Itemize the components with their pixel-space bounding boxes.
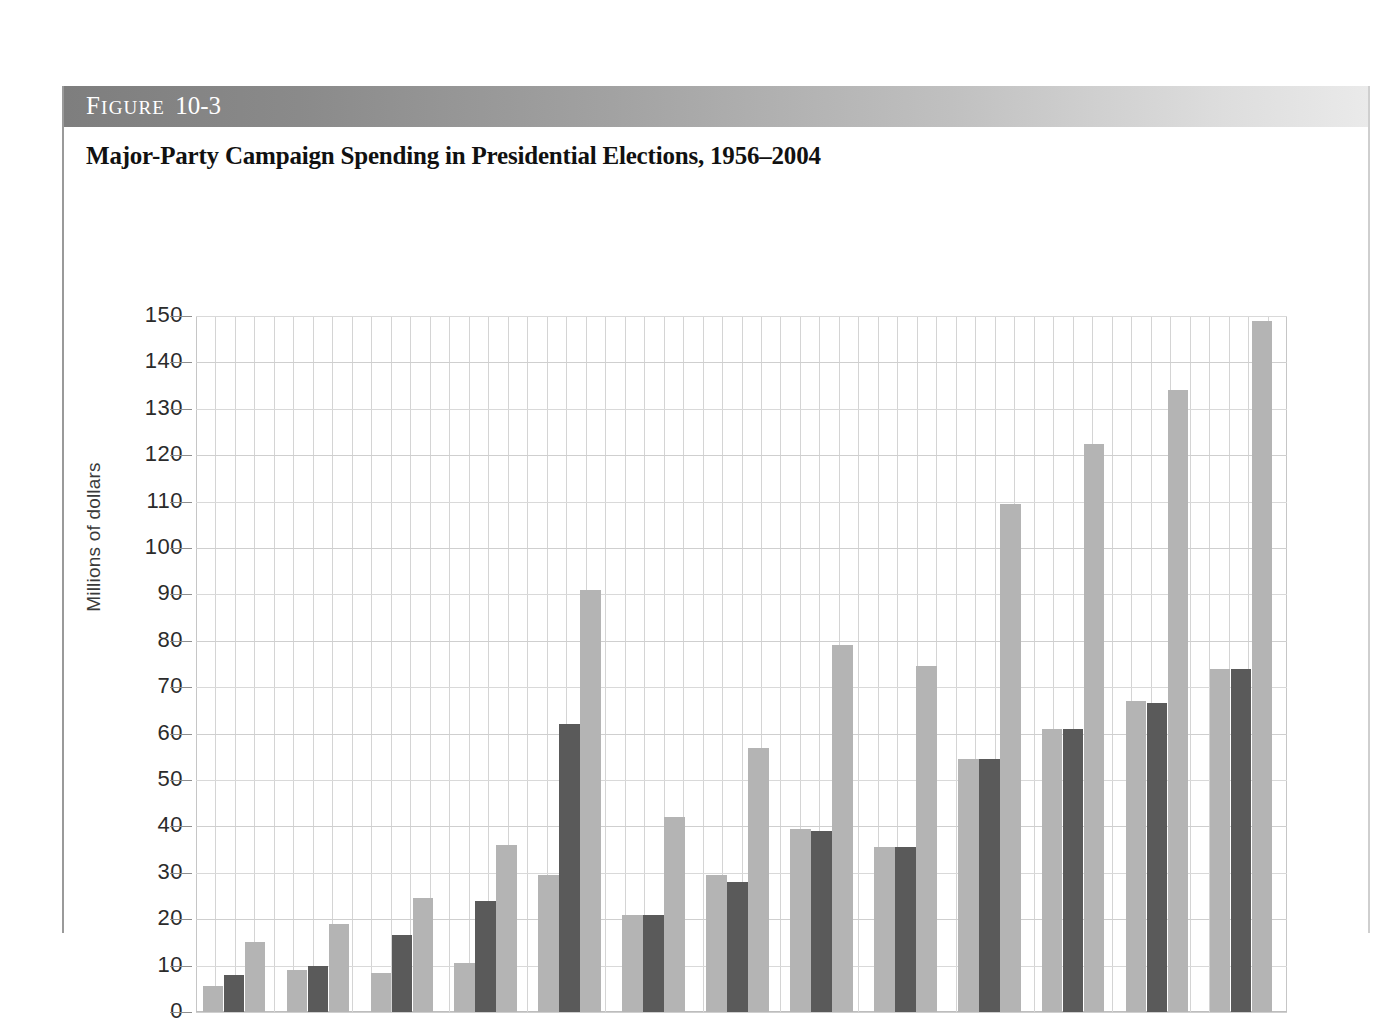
figure-number: 10-3 [175, 92, 221, 119]
bar-1960-democratic [287, 970, 308, 1012]
horizontal-gridline [196, 409, 1287, 410]
vertical-gridline [527, 316, 528, 1012]
horizontal-gridline [196, 362, 1287, 363]
y-axis-tick-mark [170, 687, 192, 688]
bar-2004-democratic [1210, 669, 1231, 1012]
bar-1980-democratic [706, 875, 727, 1012]
horizontal-gridline [196, 455, 1287, 456]
horizontal-gridline [196, 502, 1287, 503]
bar-1996-republican [1063, 729, 1084, 1012]
vertical-gridline [780, 316, 781, 1012]
y-axis-tick-label: 150 [93, 302, 183, 328]
vertical-gridline [313, 316, 314, 1012]
y-axis-tick-mark [170, 966, 192, 967]
bar-1988-democratic [874, 847, 895, 1012]
horizontal-gridline [196, 826, 1287, 827]
bar-1996-total [1084, 444, 1105, 1012]
y-axis-tick-label: 30 [93, 859, 183, 885]
bar-1976-democratic [622, 915, 643, 1012]
bar-1956-republican [224, 975, 245, 1012]
bar-1996-democratic [1042, 729, 1063, 1012]
y-axis-tick-mark [170, 409, 192, 410]
y-axis-tick-label: 90 [93, 580, 183, 606]
y-axis-tick-label: 60 [93, 720, 183, 746]
vertical-gridline [235, 316, 236, 1012]
bar-1960-total [329, 924, 350, 1012]
vertical-gridline [625, 316, 626, 1012]
bar-1964-democratic [371, 973, 392, 1012]
bar-1968-democratic [454, 963, 475, 1012]
bar-2000-total [1168, 390, 1189, 1012]
y-axis-tick-label: 20 [93, 905, 183, 931]
y-axis-tick-label: 10 [93, 952, 183, 978]
horizontal-gridline [196, 641, 1287, 642]
bar-1956-democratic [203, 986, 224, 1012]
y-axis-tick-mark [170, 826, 192, 827]
vertical-gridline [215, 316, 216, 1012]
vertical-gridline [371, 316, 372, 1012]
y-axis-tick-mark [170, 919, 192, 920]
vertical-gridline [410, 316, 411, 1012]
bar-1980-republican [727, 882, 748, 1012]
horizontal-gridline [196, 734, 1287, 735]
y-axis-tick-mark [170, 780, 192, 781]
vertical-gridline [293, 316, 294, 1012]
vertical-gridline [1034, 316, 1035, 1012]
bar-1988-republican [895, 847, 916, 1012]
chart-area: Millions of dollars 15014013012011010090… [64, 196, 1368, 933]
y-axis-tick-label: 40 [93, 812, 183, 838]
horizontal-gridline [196, 687, 1287, 688]
bar-1980-total [748, 748, 769, 1012]
bar-2004-republican [1231, 669, 1252, 1012]
bar-1972-republican [559, 724, 580, 1012]
vertical-gridline [391, 316, 392, 1012]
y-axis-tick-label: 70 [93, 673, 183, 699]
figure-word-f: F [86, 92, 101, 119]
y-axis-tick-mark [170, 594, 192, 595]
y-axis-tick-label: 50 [93, 766, 183, 792]
y-axis-tick-mark [170, 734, 192, 735]
figure-word-igure: IGURE [101, 97, 165, 118]
plot-area: 1501401301201101009080706050403020100 [196, 316, 1287, 1012]
bar-1992-total [1000, 504, 1021, 1012]
y-axis-tick-label: 130 [93, 395, 183, 421]
bar-1968-total [496, 845, 517, 1012]
horizontal-gridline [196, 548, 1287, 549]
y-axis-tick-mark [170, 641, 192, 642]
bar-2004-total [1252, 321, 1273, 1012]
figure-header-bar [64, 86, 1368, 127]
horizontal-gridline [196, 594, 1287, 595]
bar-1984-democratic [790, 829, 811, 1012]
bar-1976-republican [643, 915, 664, 1012]
bar-1960-republican [308, 966, 329, 1012]
bar-1984-republican [811, 831, 832, 1012]
figure-box: FIGURE10-3 Major-Party Campaign Spending… [62, 86, 1370, 933]
y-axis-tick-label: 80 [93, 627, 183, 653]
y-axis-tick-mark [170, 316, 192, 317]
horizontal-gridline [196, 780, 1287, 781]
horizontal-gridline [196, 1012, 1287, 1013]
vertical-gridline [469, 316, 470, 1012]
bar-1964-republican [392, 935, 413, 1012]
bar-1992-republican [979, 759, 1000, 1012]
figure-title: Major-Party Campaign Spending in Preside… [86, 142, 821, 170]
bar-1988-total [916, 666, 937, 1012]
bar-1972-democratic [538, 875, 559, 1012]
y-axis-tick-label: 110 [93, 488, 183, 514]
y-axis-tick-mark [170, 362, 192, 363]
vertical-gridline [449, 316, 450, 1012]
horizontal-gridline [196, 873, 1287, 874]
y-axis-tick-label: 100 [93, 534, 183, 560]
y-axis-tick-mark [170, 455, 192, 456]
vertical-gridline [352, 316, 353, 1012]
vertical-gridline [858, 316, 859, 1012]
y-axis-tick-label: 140 [93, 348, 183, 374]
vertical-gridline [254, 316, 255, 1012]
vertical-gridline [1190, 316, 1191, 1012]
bar-1956-total [245, 942, 266, 1012]
vertical-gridline [605, 316, 606, 1012]
vertical-gridline [274, 316, 275, 1012]
y-axis-tick-mark [170, 548, 192, 549]
bar-2000-republican [1147, 703, 1168, 1012]
